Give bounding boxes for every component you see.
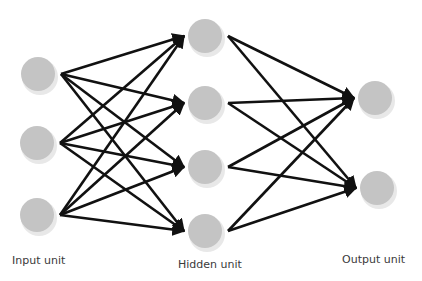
hidden-node-4 [188, 214, 225, 252]
edge-input2-to-hidden2 [60, 103, 184, 143]
edge-hidden3-to-output1 [228, 98, 354, 167]
neural-network-diagram [0, 0, 422, 281]
hidden-node-3 [188, 150, 225, 188]
hidden-layer-label: Hidden unit [178, 258, 242, 271]
hidden-node-2 [188, 86, 225, 124]
input-layer-label: Input unit [12, 254, 65, 267]
input-node-1 [21, 57, 58, 95]
output-layer-label: Output unit [342, 253, 405, 266]
input-node-3 [20, 198, 57, 236]
edge-input1-to-hidden1 [61, 36, 184, 74]
output-node-2 [360, 171, 397, 209]
edge-hidden1-to-output1 [228, 36, 354, 98]
input-node-2 [20, 126, 57, 164]
edge-hidden2-to-output1 [228, 98, 354, 103]
connection-edges [60, 36, 356, 231]
hidden-node-1 [188, 19, 225, 57]
output-node-1 [358, 81, 395, 119]
edge-hidden3-to-output2 [228, 167, 356, 188]
